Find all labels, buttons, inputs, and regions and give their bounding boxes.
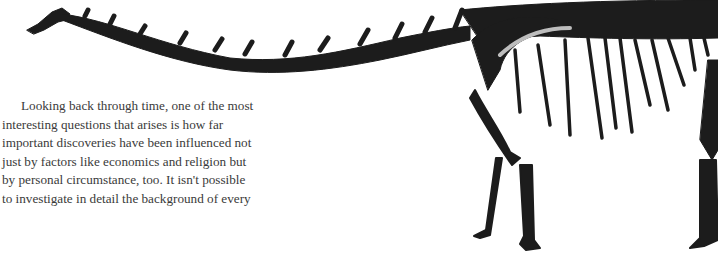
paragraph-line: interesting questions that arises is how… — [2, 116, 272, 135]
body-paragraph: Looking back through time, one of the mo… — [2, 97, 272, 209]
paragraph-line: to investigate in detail the background … — [2, 190, 272, 209]
paragraph-line: important discoveries have been influenc… — [2, 134, 272, 153]
paragraph-line: just by factors like economics and relig… — [2, 153, 272, 172]
paragraph-line: by personal circumstance, too. It isn't … — [2, 171, 272, 190]
paragraph-line: Looking back through time, one of the mo… — [2, 97, 272, 116]
